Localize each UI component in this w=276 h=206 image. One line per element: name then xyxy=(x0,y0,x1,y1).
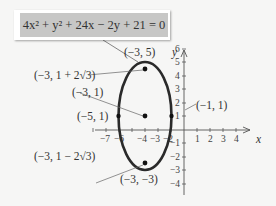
x-tick-label: 3 xyxy=(221,134,226,144)
y-tick-label: 2 xyxy=(175,98,180,108)
y-axis xyxy=(181,50,187,195)
x-tick-label: −3 xyxy=(150,134,160,144)
y-tick-label: −2 xyxy=(170,152,180,162)
right-covertex-point xyxy=(169,114,173,118)
focus-bottom-point xyxy=(143,161,148,166)
focus-top-point xyxy=(143,67,148,72)
label-focus-top: (−3, 1 + 2√3) xyxy=(34,69,96,82)
x-axis-label: x xyxy=(255,133,262,145)
label-top-vertex: (−3, 5) xyxy=(124,46,156,59)
label-center: (−3, 1) xyxy=(72,86,104,99)
x-tick-label: 2 xyxy=(208,134,213,144)
label-right-covertex: (−1, 1) xyxy=(196,99,228,112)
center-point xyxy=(143,114,148,119)
y-axis-label: y xyxy=(171,46,178,59)
y-tick-label: −1 xyxy=(170,138,180,148)
label-left-covertex: (−5, 1) xyxy=(77,110,109,123)
equation-callout: 4x² + y² + 24x − 2y + 21 = 0 xyxy=(14,10,170,40)
y-tick-label: 3 xyxy=(175,84,180,94)
y-tick-label: 4 xyxy=(175,71,180,81)
equation-text: 4x² + y² + 24x − 2y + 21 = 0 xyxy=(20,13,168,37)
y-tick-label: 5 xyxy=(175,57,180,67)
y-tick-label: 1 xyxy=(175,111,180,121)
label-bottom-vertex: (−3, −3) xyxy=(120,173,158,186)
x-tick-label: −4 xyxy=(137,134,147,144)
label-focus-bottom: (−3, 1 − 2√3) xyxy=(34,150,96,163)
x-tick-label: 4 xyxy=(234,134,239,144)
left-covertex-point xyxy=(116,114,120,118)
x-tick-label: 1 xyxy=(195,134,200,144)
y-tick-label: −4 xyxy=(170,179,180,189)
y-tick-label: −3 xyxy=(170,165,180,175)
x-tick-label: −7 xyxy=(100,134,110,144)
